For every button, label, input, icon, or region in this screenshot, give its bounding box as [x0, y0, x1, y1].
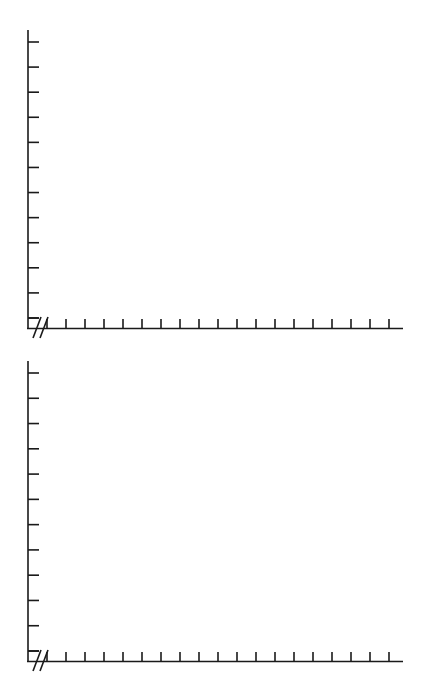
break-slash-left [33, 317, 41, 338]
chart-panel-top [0, 0, 429, 343]
x-axis-ticks [47, 652, 389, 661]
chart-svg-top [0, 0, 429, 343]
break-slash-left [33, 650, 41, 671]
y-axis-group-top [28, 30, 39, 329]
chart-panel-bottom [0, 343, 429, 686]
x-axis-break-icon [33, 650, 48, 671]
y-axis-group-bottom [28, 361, 39, 662]
x-axis-break-icon [33, 317, 48, 338]
chart-svg-bottom [0, 343, 429, 686]
x-axis-group-bottom [27, 650, 403, 671]
x-axis-group-top [27, 317, 403, 338]
y-axis-ticks [28, 42, 39, 318]
y-axis-ticks [28, 373, 39, 651]
x-axis-ticks [47, 319, 389, 328]
figure-canvas [0, 0, 429, 686]
